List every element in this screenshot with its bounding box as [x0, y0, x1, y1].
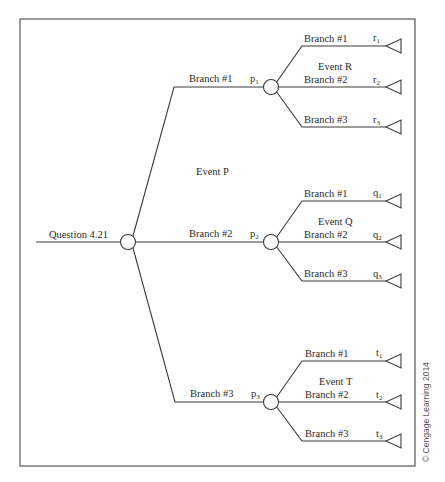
p1-label: p1 — [250, 73, 259, 86]
q-branch-2-label: Branch #2 — [304, 229, 347, 240]
r1-label: r1 — [373, 32, 381, 45]
sub-event-r: Branch #1 Event R Branch #2 Branch #3 r1… — [264, 32, 402, 134]
branch-2-label: Branch #2 — [189, 228, 232, 239]
q1-terminal-icon — [386, 194, 401, 208]
t3-terminal-icon — [386, 434, 401, 448]
event-t-label: Event T — [319, 376, 353, 387]
branch-3-label: Branch #3 — [190, 388, 233, 399]
q1-label: q1 — [373, 187, 382, 200]
t3-label: t3 — [376, 428, 383, 441]
q-branch-1-label: Branch #1 — [304, 188, 347, 199]
copyright-notice: © Cengage Learning 2014 — [421, 362, 431, 462]
q2-label: q2 — [373, 229, 382, 242]
t-chance-node — [264, 395, 279, 410]
root-label: Question 4.21 — [49, 229, 108, 240]
p3-label: p3 — [251, 388, 260, 401]
r1-terminal-icon — [386, 39, 401, 53]
r2-label: r2 — [373, 74, 381, 87]
root-chance-node — [121, 235, 136, 250]
t-branch-3-label: Branch #3 — [305, 428, 348, 439]
t-branch-1-label: Branch #1 — [305, 348, 348, 359]
q3-label: q3 — [373, 268, 382, 281]
r3-label: r3 — [373, 114, 381, 127]
t1-label: t1 — [376, 347, 383, 360]
r-branch-3-label: Branch #3 — [304, 114, 347, 125]
q2-terminal-icon — [386, 235, 401, 249]
t2-terminal-icon — [386, 395, 401, 409]
q-branch-3-label: Branch #3 — [304, 268, 347, 279]
decision-tree-diagram: Question 4.21 Event P Branch #1 p1 Branc… — [0, 0, 445, 482]
event-q-label: Event Q — [318, 216, 353, 227]
sub-event-q: Branch #1 Event Q Branch #2 Branch #3 q1… — [264, 187, 402, 288]
r2-terminal-icon — [386, 80, 401, 94]
event-r-label: Event R — [318, 61, 352, 72]
q3-terminal-icon — [386, 274, 401, 288]
p2-label: p2 — [250, 228, 259, 241]
t2-label: t2 — [376, 389, 383, 402]
t1-terminal-icon — [386, 354, 401, 368]
r-branch-2-label: Branch #2 — [304, 74, 347, 85]
r-chance-node — [264, 80, 279, 95]
branch-1-line — [133, 87, 264, 236]
r-branch-1-label: Branch #1 — [304, 33, 347, 44]
branch-1-label: Branch #1 — [189, 73, 232, 84]
t-branch-2-label: Branch #2 — [305, 389, 348, 400]
q-chance-node — [264, 235, 279, 250]
r3-terminal-icon — [386, 120, 401, 134]
event-p-label: Event P — [196, 166, 229, 177]
branch-3-line — [133, 248, 264, 402]
sub-event-t: Branch #1 Event T Branch #2 Branch #3 t1… — [264, 347, 402, 448]
